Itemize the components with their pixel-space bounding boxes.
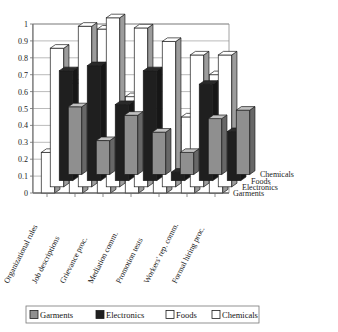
x-axis-category-label: Job descriptions [30, 235, 62, 285]
y-axis-tick-label: 0.9 [18, 37, 28, 46]
x-axis-category-label: Mediation comm. [86, 230, 120, 285]
bar-side-face [82, 103, 87, 174]
y-axis-tick-label: 0.2 [18, 155, 28, 164]
legend-swatch [212, 311, 220, 319]
bar [236, 107, 255, 175]
bar [180, 149, 199, 175]
legend-label: Garments [40, 310, 73, 320]
bar-front-face [124, 115, 138, 174]
depth-axis-label: Garments [233, 189, 264, 198]
chart-back-walls: 10.90.80.70.60.50.40.30.20.10Organizatio… [2, 14, 294, 323]
bar-side-face [194, 149, 199, 175]
chart-canvas: 10.90.80.70.60.50.40.30.20.10Organizatio… [0, 0, 338, 332]
legend-swatch [30, 311, 38, 319]
legend-item[interactable]: Electronics [96, 310, 144, 320]
bar-side-face [110, 137, 115, 174]
bar-side-face [222, 115, 227, 174]
bar-side-face [166, 129, 171, 175]
bar-front-face [180, 152, 194, 174]
y-axis-tick-label: 0.5 [18, 105, 28, 114]
bar-front-face [208, 119, 222, 175]
bar [96, 137, 115, 174]
y-axis-tick-label: 0.3 [18, 138, 28, 147]
legend-swatch [166, 311, 174, 319]
legend-label: Foods [176, 310, 197, 320]
bar-front-face [96, 141, 110, 175]
bar-front-face [68, 107, 82, 175]
legend-item[interactable]: Garments [30, 310, 73, 320]
bar-side-face [250, 107, 255, 175]
y-axis-tick-label: 0.7 [18, 71, 28, 80]
x-axis-category-label: Grievance proc. [58, 235, 89, 285]
legend-item[interactable]: Foods [166, 310, 197, 320]
y-axis-tick-label: 0.8 [18, 54, 28, 63]
chart-3d-bar: 10.90.80.70.60.50.40.30.20.10Organizatio… [0, 0, 338, 332]
bar [208, 115, 227, 174]
legend-label: Chemicals [222, 310, 258, 320]
legend-swatch [96, 311, 104, 319]
legend-label: Electronics [106, 310, 144, 320]
x-axis: Organizational rulesJob descriptionsGrie… [2, 170, 294, 323]
x-axis-category-label: Promotion tests [114, 236, 145, 285]
y-axis-tick-label: 0.4 [18, 121, 28, 130]
bar-front-face [152, 132, 166, 174]
bar [68, 103, 87, 174]
y-axis-tick-label: 0.6 [18, 88, 28, 97]
legend: GarmentsElectronicsFoodsChemicals [26, 306, 259, 323]
bar [152, 129, 171, 175]
bar [124, 112, 143, 175]
bar-front-face [236, 110, 250, 174]
y-axis-tick-label: 0 [24, 189, 28, 198]
bar-side-face [138, 112, 143, 175]
legend-item[interactable]: Chemicals [212, 310, 258, 320]
y-axis-tick-label: 0.1 [18, 172, 28, 181]
y-axis-tick-label: 1 [24, 20, 28, 29]
